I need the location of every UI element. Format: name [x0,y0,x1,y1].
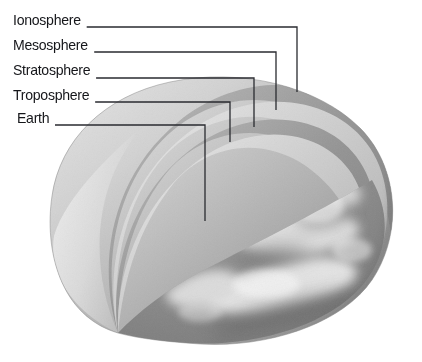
label-troposphere: Troposphere [13,87,89,102]
figure-canvas: IonosphereMesosphereStratosphereTroposph… [0,0,422,362]
label-stratosphere: Stratosphere [13,62,90,77]
halftone-grain [0,0,422,362]
label-ionosphere: Ionosphere [13,12,81,27]
label-earth: Earth [17,110,49,125]
atmosphere-cutaway-illustration [0,0,422,362]
label-mesosphere: Mesosphere [13,37,88,52]
